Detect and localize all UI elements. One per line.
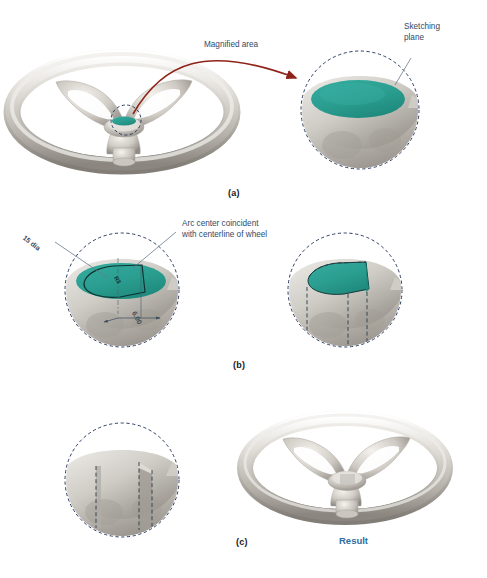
panel-b-left-detail: [55, 232, 180, 350]
arc-center-note-line1: Arc center coincident: [182, 219, 258, 229]
arc-center-leader: [133, 232, 176, 268]
panel-a-steering-wheel: [12, 54, 296, 166]
result-label: Result: [339, 535, 368, 546]
panel-a-magnified-detail: [299, 51, 422, 171]
panel-c-result-wheel: [245, 415, 445, 518]
arc-center-note-line2: with centerline of wheel: [182, 230, 267, 240]
magnified-area-label: Magnified area: [204, 40, 258, 50]
sketching-plane-leader: [395, 58, 411, 85]
figure-canvas: [0, 0, 487, 578]
figure-root: Magnified area Sketching plane (a) Arc c…: [0, 0, 487, 578]
sketching-plane-label-line1: Sketching: [404, 22, 440, 32]
sketch-plane-patch-a: [112, 116, 136, 125]
panel-b-right-detail: [287, 233, 404, 350]
panel-caption-c: (c): [236, 537, 248, 547]
panel-caption-a: (a): [228, 188, 240, 198]
panel-c-left-detail: [64, 423, 181, 538]
sketching-plane-label-line2: plane: [404, 33, 424, 43]
panel-caption-b: (b): [233, 360, 245, 370]
